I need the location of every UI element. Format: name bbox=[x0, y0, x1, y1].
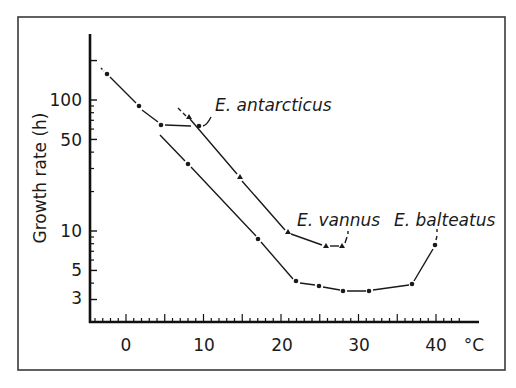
y-tick-labels: 100 50 10 5 3 bbox=[50, 90, 82, 308]
marker bbox=[186, 162, 191, 167]
marker bbox=[433, 243, 438, 248]
marker bbox=[367, 289, 372, 294]
marker bbox=[186, 114, 192, 119]
label-vannus: E. vannus bbox=[297, 210, 380, 230]
marker bbox=[159, 123, 164, 128]
x-axis-unit-label: °C bbox=[464, 335, 484, 355]
marker bbox=[410, 282, 415, 287]
y-tick-label-5: 5 bbox=[71, 260, 82, 280]
balteatus-plateau bbox=[300, 283, 409, 291]
marker bbox=[237, 174, 243, 179]
chart-svg: 100 50 10 5 3 0 10 20 30 40 °C Growth ra… bbox=[0, 0, 516, 388]
marker bbox=[317, 284, 322, 289]
balteatus-rise bbox=[414, 249, 433, 281]
x-tick-label-30: 30 bbox=[348, 335, 370, 355]
label-antarcticus: E. antarcticus bbox=[215, 95, 332, 115]
x-tick-label-0: 0 bbox=[121, 335, 132, 355]
balteatus-line-upper bbox=[160, 135, 256, 236]
growth-rate-chart: 100 50 10 5 3 0 10 20 30 40 °C Growth ra… bbox=[0, 0, 516, 388]
y-tick-label-50: 50 bbox=[60, 130, 82, 150]
marker bbox=[323, 243, 329, 248]
vannus-line bbox=[190, 119, 285, 230]
marker bbox=[341, 289, 346, 294]
antarcticus-plateau bbox=[165, 125, 191, 126]
marker bbox=[339, 243, 345, 248]
x-tick-label-10: 10 bbox=[193, 335, 215, 355]
y-axis-title: Growth rate (h) bbox=[30, 113, 50, 244]
vannus-dash-start bbox=[178, 108, 186, 116]
marker bbox=[294, 279, 299, 284]
balteatus-line-mid bbox=[261, 242, 293, 279]
vannus-tail bbox=[291, 234, 322, 245]
antarcticus-dash-start bbox=[101, 68, 104, 71]
marker bbox=[285, 229, 291, 234]
marker bbox=[256, 237, 261, 242]
axes bbox=[89, 34, 479, 323]
antarcticus-line bbox=[110, 77, 158, 122]
antarcticus-leader bbox=[203, 117, 211, 126]
vannus-leader bbox=[345, 231, 348, 243]
marker bbox=[197, 124, 202, 129]
x-tick-label-20: 20 bbox=[271, 335, 293, 355]
y-tick-label-100: 100 bbox=[50, 90, 82, 110]
x-tick-label-40: 40 bbox=[425, 335, 447, 355]
x-tick-labels: 0 10 20 30 40 °C bbox=[121, 335, 485, 355]
y-tick-label-3: 3 bbox=[71, 288, 82, 308]
label-balteatus: E. balteatus bbox=[394, 210, 495, 230]
balteatus-leader bbox=[436, 229, 437, 240]
y-tick-label-10: 10 bbox=[60, 221, 82, 241]
marker bbox=[137, 104, 142, 109]
marker bbox=[105, 72, 110, 77]
